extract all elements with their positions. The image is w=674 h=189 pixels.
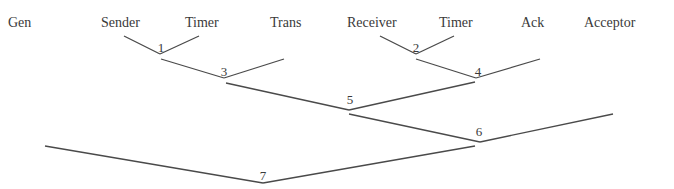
edge-node-7-left xyxy=(45,146,263,183)
edge-node-4-left xyxy=(416,59,476,78)
edge-node-6-left xyxy=(349,114,480,142)
leaf-gen: Gen xyxy=(8,15,31,31)
node-label-6: 6 xyxy=(476,124,483,140)
node-label-7: 7 xyxy=(260,168,267,184)
leaf-ack: Ack xyxy=(521,15,544,31)
edge-node-4-right xyxy=(476,59,540,78)
node-label-1: 1 xyxy=(158,40,165,56)
leaf-sender: Sender xyxy=(101,15,140,31)
node-label-2: 2 xyxy=(413,40,420,56)
edge-node-1-left xyxy=(124,36,160,54)
leaf-timer-1: Timer xyxy=(185,15,219,31)
edge-node-3-right xyxy=(224,59,284,78)
leaf-trans: Trans xyxy=(270,15,301,31)
node-label-3: 3 xyxy=(221,64,228,80)
leaf-timer-2: Timer xyxy=(439,15,473,31)
edge-node-5-left xyxy=(226,83,349,110)
edge-node-1-right xyxy=(160,36,199,54)
edge-node-2-left xyxy=(380,36,416,54)
edge-node-3-left xyxy=(161,59,224,78)
edge-node-2-right xyxy=(416,36,454,54)
edge-node-5-right xyxy=(349,82,475,110)
node-label-5: 5 xyxy=(347,92,354,108)
merge-tree-diagram: Gen Sender Timer Trans Receiver Timer Ac… xyxy=(0,0,674,189)
leaf-receiver: Receiver xyxy=(347,15,397,31)
edge-node-7-right xyxy=(263,146,475,183)
edge-node-6-right xyxy=(480,114,613,142)
leaf-acceptor: Acceptor xyxy=(584,15,635,31)
node-label-4: 4 xyxy=(475,64,482,80)
